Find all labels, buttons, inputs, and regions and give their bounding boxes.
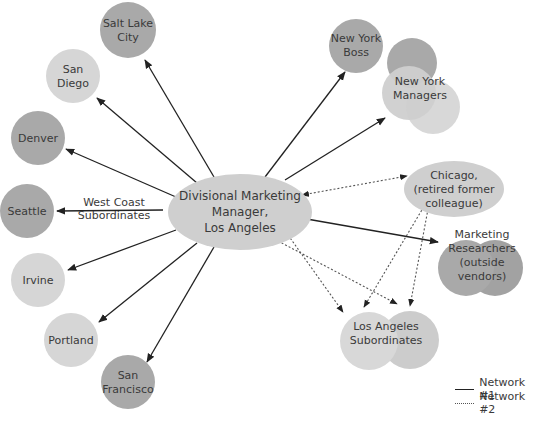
label-marketing-researchers: Marketing Researchers (outside vendors)	[448, 228, 515, 284]
label-seattle: Seattle	[8, 205, 47, 219]
edge-irvine	[68, 230, 176, 270]
legend-network2-label: Network #2	[479, 390, 542, 416]
edge-new-york-managers	[285, 118, 385, 180]
edge-chicago	[302, 176, 407, 195]
edge-san-francisco	[147, 247, 214, 362]
edge-new-york-boss	[265, 72, 345, 177]
edge-portland	[99, 243, 197, 322]
label-new-york-managers: New York Managers	[393, 75, 447, 103]
label-denver: Denver	[18, 132, 58, 146]
legend-network2: Network #2	[455, 396, 542, 410]
edge-label-west-coast-subordinates: West Coast Subordinates	[78, 196, 151, 222]
label-chicago: Chicago, (retired former colleague)	[413, 169, 494, 211]
edge-salt-lake-city	[145, 60, 214, 177]
label-portland: Portland	[48, 334, 94, 348]
label-la-subordinates: Los Angeles Subordinates	[350, 320, 423, 348]
dotted-line-icon	[455, 403, 474, 404]
label-san-diego: San Diego	[57, 63, 89, 91]
label-irvine: Irvine	[22, 274, 53, 288]
edge-la-subordinates-1	[288, 235, 343, 312]
legend: Network #1 Network #2	[455, 382, 542, 410]
edge-san-diego	[97, 98, 197, 183]
edge-la-subordinates-2	[278, 241, 397, 304]
label-san-francisco: San Francisco	[102, 369, 153, 397]
solid-line-icon	[455, 389, 474, 390]
label-salt-lake-city: Salt Lake City	[103, 17, 153, 45]
label-new-york-boss: New York Boss	[331, 32, 381, 60]
center-node-label: Divisional Marketing Manager, Los Angele…	[179, 188, 301, 236]
edge-marketing-researchers	[301, 218, 438, 242]
edge-denver	[66, 149, 176, 197]
